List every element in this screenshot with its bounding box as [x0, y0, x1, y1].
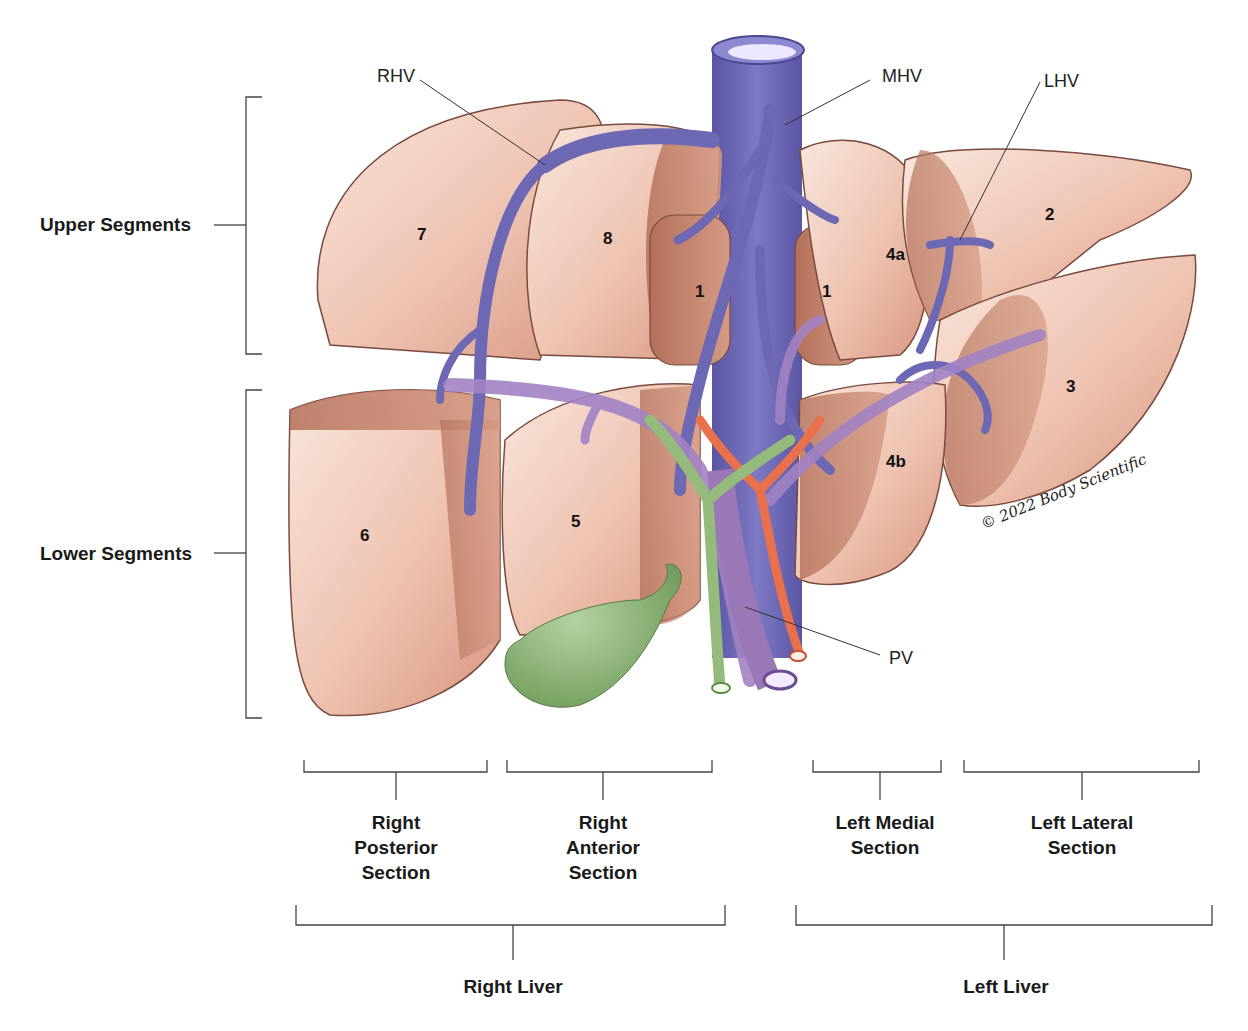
segment-4b-label: 4b	[886, 452, 906, 472]
segment-1b-label: 1	[822, 282, 831, 302]
segment-4a-label: 4a	[886, 245, 905, 265]
left-lateral-section-label: Left Lateral Section	[997, 810, 1167, 860]
segment-6-label: 6	[360, 526, 369, 546]
lower-segments-bracket	[214, 390, 262, 718]
right-anterior-bracket	[507, 760, 712, 800]
segment-1a-label: 1	[695, 282, 704, 302]
pv-label: PV	[889, 648, 913, 669]
left-medial-section-label: Left Medial Section	[800, 810, 970, 860]
right-liver-bracket	[296, 905, 725, 960]
segment-5-label: 5	[571, 512, 580, 532]
segment-8-label: 8	[603, 229, 612, 249]
upper-segments-bracket	[214, 97, 262, 354]
segment-3-label: 3	[1066, 377, 1075, 397]
mhv-label: MHV	[882, 66, 922, 87]
left-medial-bracket	[813, 760, 941, 800]
right-posterior-bracket	[304, 760, 487, 800]
right-anterior-section-label: Right Anterior Section	[523, 810, 683, 885]
left-lateral-bracket	[964, 760, 1199, 800]
left-liver-bracket	[796, 905, 1212, 960]
segment-7-label: 7	[417, 225, 426, 245]
right-posterior-section-label: Right Posterior Section	[316, 810, 476, 885]
upper-segments-label: Upper Segments	[40, 214, 191, 236]
lhv-label: LHV	[1044, 71, 1079, 92]
lower-segments-label: Lower Segments	[40, 543, 192, 565]
right-liver-label: Right Liver	[413, 974, 613, 999]
segment-2-label: 2	[1045, 205, 1054, 225]
left-liver-label: Left Liver	[906, 974, 1106, 999]
rhv-label: RHV	[377, 66, 415, 87]
